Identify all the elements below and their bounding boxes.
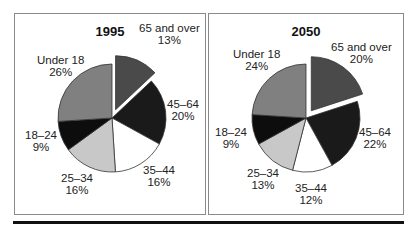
label-18-24: 18–249% — [215, 126, 247, 150]
label-35-44: 35–4412% — [295, 182, 327, 206]
label-45-64: 45–6420% — [167, 98, 199, 122]
pie-slice — [252, 64, 306, 118]
label-25-34: 25–3416% — [61, 172, 93, 196]
label-under-18: Under 1824% — [233, 48, 280, 72]
label-65-over: 65 and over13% — [139, 22, 200, 46]
chart-panel-2050: 2050 65 and over20% 45–6422% 35–4412% 25… — [208, 13, 404, 215]
label-65-over: 65 and over20% — [331, 41, 392, 65]
label-under-18: Under 1826% — [37, 54, 84, 78]
bottom-rule — [13, 221, 404, 224]
label-25-34: 25–3413% — [247, 167, 279, 191]
label-18-24: 18–249% — [25, 129, 57, 153]
label-35-44: 35–4416% — [143, 164, 175, 188]
chart-panel-1995: 1995 65 and over13% 45–6420% 35–4416% 25… — [14, 13, 206, 215]
label-45-64: 45–6422% — [359, 126, 391, 150]
